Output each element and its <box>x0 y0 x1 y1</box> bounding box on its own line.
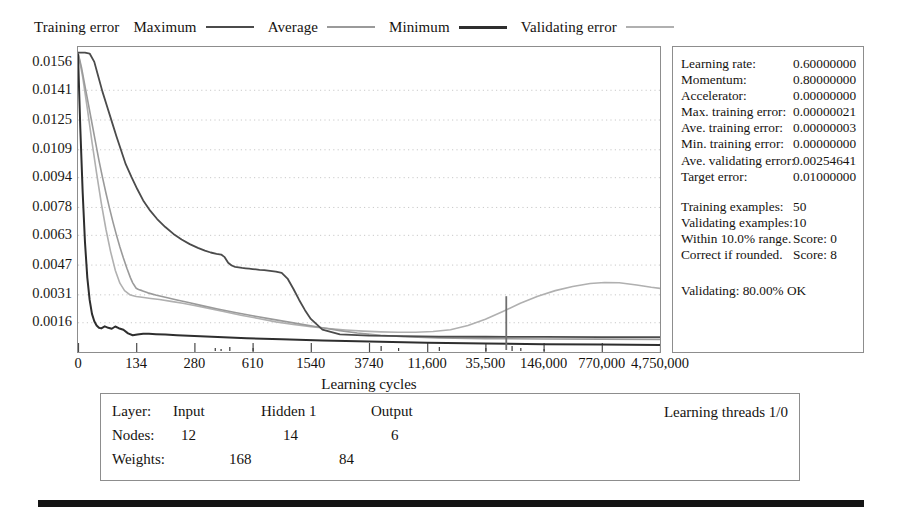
info-row-key: Correct if rounded. <box>681 247 793 263</box>
x-tick-label: 11,600 <box>408 356 447 371</box>
y-tick-label: 0.0078 <box>14 199 72 214</box>
series-validating-error <box>78 53 660 333</box>
nodes-hidden-1: 14 <box>283 427 298 444</box>
x-tick-label: 134 <box>125 356 147 371</box>
legend-swatch-average <box>327 26 375 28</box>
series-minimum <box>78 54 660 344</box>
y-tick-label: 0.0063 <box>14 227 72 242</box>
info-examples-group: Training examples:50Validating examples:… <box>681 199 863 263</box>
chart-legend: Training error Maximum Average Minimum V… <box>34 16 688 38</box>
info-row-value: 0.01000000 <box>793 169 856 185</box>
info-row: Momentum:0.80000000 <box>681 72 863 88</box>
info-row-key: Accelerator: <box>681 88 793 104</box>
layer-label: Layer: <box>112 403 151 420</box>
series-average <box>78 53 660 340</box>
training-error-chart <box>77 46 661 353</box>
info-row: Ave. validating error:0.00254641 <box>681 153 863 169</box>
nodes-row: Nodes: 12 14 6 <box>101 427 799 451</box>
info-row-key: Max. training error: <box>681 104 793 120</box>
info-row: Min. training error:0.00000000 <box>681 136 863 152</box>
info-row: Validating examples:10 <box>681 215 863 231</box>
info-spacer-2 <box>681 263 863 283</box>
y-tick-label: 0.0016 <box>14 314 72 329</box>
validating-status: Validating: 80.00% OK <box>681 283 806 299</box>
layer-output: Output <box>371 403 413 420</box>
info-row-value: 0.00000000 <box>793 88 856 104</box>
page-rule <box>38 500 864 507</box>
y-axis: 0.01560.01410.01250.01090.00940.00780.00… <box>14 46 72 353</box>
y-tick-label: 0.0109 <box>14 141 72 156</box>
y-tick-label: 0.0047 <box>14 257 72 272</box>
info-row: Max. training error:0.00000021 <box>681 104 863 120</box>
training-info-panel: Learning rate:0.60000000Momentum:0.80000… <box>672 46 864 353</box>
info-row: Learning rate:0.60000000 <box>681 56 863 72</box>
x-tick-label: 770,000 <box>578 356 625 371</box>
info-row-key: Ave. validating error: <box>681 153 793 169</box>
legend-item-minimum-label: Minimum <box>389 19 450 36</box>
info-row-value: 10 <box>793 215 806 231</box>
info-row-value: 0.60000000 <box>793 56 856 72</box>
y-tick-label: 0.0125 <box>14 112 72 127</box>
x-tick-label: 610 <box>242 356 264 371</box>
layer-hidden-1: Hidden 1 <box>261 403 316 420</box>
weights-label: Weights: <box>112 451 165 468</box>
info-row-key: Target error: <box>681 169 793 185</box>
info-row: Training examples:50 <box>681 199 863 215</box>
x-axis-title: Learning cycles <box>77 376 661 393</box>
info-spacer-1 <box>681 185 863 199</box>
weights-input-hidden: 168 <box>229 451 252 468</box>
validating-status-row: Validating: 80.00% OK <box>681 283 863 299</box>
info-row: Accelerator:0.00000000 <box>681 88 863 104</box>
y-tick-label: 0.0156 <box>14 54 72 69</box>
info-parameters-group: Learning rate:0.60000000Momentum:0.80000… <box>681 56 863 185</box>
x-tick-label: 280 <box>184 356 206 371</box>
x-tick-label: 1540 <box>296 356 325 371</box>
y-tick-label: 0.0141 <box>14 82 72 97</box>
x-axis: 01342806101540374011,60035,500146,000770… <box>0 356 902 376</box>
info-row-value: 0.00000003 <box>793 120 856 136</box>
info-row-key: Validating examples: <box>681 215 793 231</box>
legend-item-average-label: Average <box>268 19 318 36</box>
x-tick-label: 3740 <box>355 356 384 371</box>
info-row-value: 0.00254641 <box>793 153 856 169</box>
nodes-label: Nodes: <box>112 427 155 444</box>
info-row: Ave. training error:0.00000003 <box>681 120 863 136</box>
legend-item-validating-error-label: Validating error <box>521 19 617 36</box>
nodes-output: 6 <box>391 427 399 444</box>
legend-swatch-maximum <box>206 26 254 28</box>
legend-item-average: Average <box>268 19 375 36</box>
network-structure-panel: Layer: Input Hidden 1 Output Nodes: 12 1… <box>100 393 800 481</box>
info-row-key: Training examples: <box>681 199 793 215</box>
info-row: Within 10.0% range.Score: 0 <box>681 231 863 247</box>
x-tick-label: 0 <box>74 356 81 371</box>
info-row-key: Momentum: <box>681 72 793 88</box>
info-row-value: Score: 0 <box>793 231 837 247</box>
weights-hidden-output: 84 <box>339 451 354 468</box>
info-row-value: 0.00000021 <box>793 104 856 120</box>
info-row-value: Score: 8 <box>793 247 837 263</box>
info-row-key: Min. training error: <box>681 136 793 152</box>
legend-title: Training error <box>34 19 119 36</box>
info-row-key: Within 10.0% range. <box>681 231 793 247</box>
info-row: Target error:0.01000000 <box>681 169 863 185</box>
info-row-value: 50 <box>793 199 806 215</box>
info-row-key: Learning rate: <box>681 56 793 72</box>
layer-input: Input <box>173 403 205 420</box>
legend-item-validating-error: Validating error <box>521 19 674 36</box>
learning-threads-status: Learning threads 1/0 <box>664 404 788 421</box>
y-tick-label: 0.0094 <box>14 169 72 184</box>
legend-swatch-minimum <box>459 26 507 29</box>
x-tick-label: 35,500 <box>465 356 505 371</box>
x-tick-label: 4,750,000 <box>631 356 689 371</box>
chart-plot-area <box>78 47 660 352</box>
info-row-key: Ave. training error: <box>681 120 793 136</box>
legend-item-maximum: Maximum <box>133 19 253 36</box>
info-row-value: 0.80000000 <box>793 72 856 88</box>
legend-item-minimum: Minimum <box>389 19 507 36</box>
weights-row: Weights: 168 84 <box>101 451 799 475</box>
info-row: Correct if rounded.Score: 8 <box>681 247 863 263</box>
legend-item-maximum-label: Maximum <box>133 19 196 36</box>
legend-swatch-validating-error <box>626 26 674 28</box>
nodes-input: 12 <box>181 427 196 444</box>
y-tick-label: 0.0031 <box>14 286 72 301</box>
